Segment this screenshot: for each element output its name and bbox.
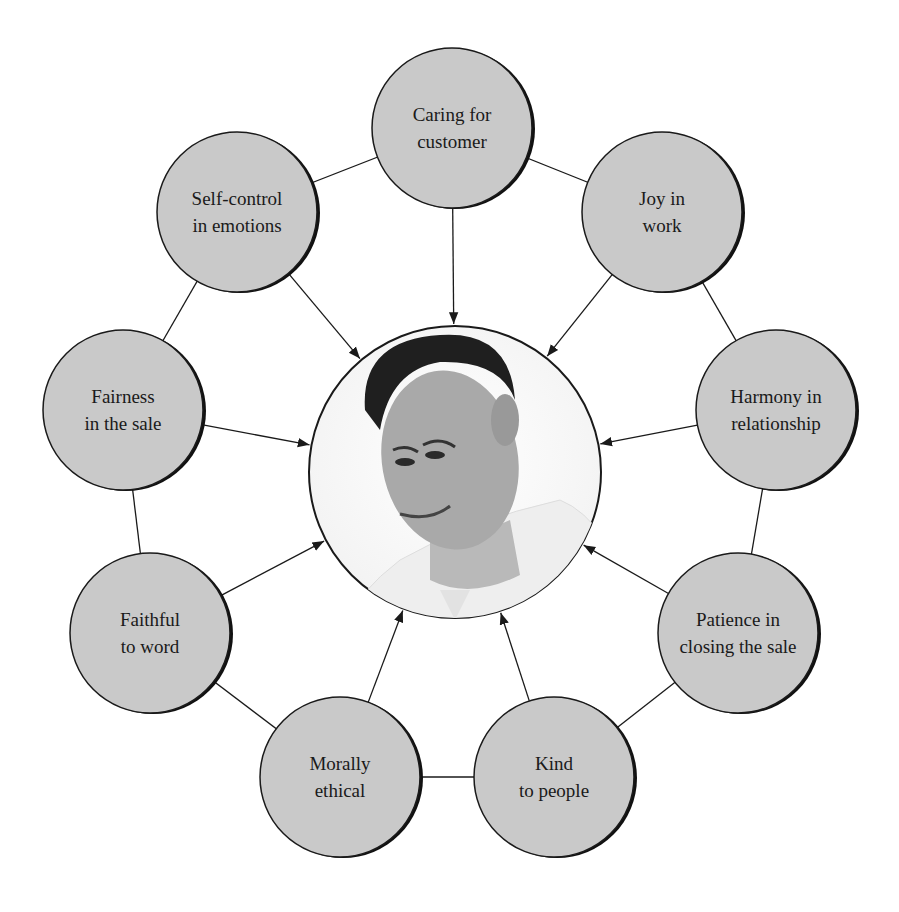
arrow-joy [547,275,612,357]
label-line-1: Harmony in [701,383,851,410]
node-label-patience: Patience inclosing the sale [663,606,813,660]
label-line-2: relationship [701,410,851,437]
node-label-morally: Morallyethical [265,750,415,804]
node-label-joy: Joy inwork [587,185,737,239]
arrow-kind [501,613,530,701]
label-line-2: ethical [265,777,415,804]
node-label-faithful: Faithfulto word [75,606,225,660]
center-portrait [309,326,640,640]
label-line-1: Fairness [48,383,198,410]
arrow-selfcontrol [288,273,360,358]
arrow-faithful [221,541,324,596]
label-line-1: Kind [479,750,629,777]
label-line-1: Caring for [377,101,527,128]
arrow-patience [584,545,669,593]
label-line-1: Morally [265,750,415,777]
label-line-2: to people [479,777,629,804]
label-line-1: Self-control [162,185,312,212]
arrow-caring [453,208,454,324]
node-label-caring: Caring forcustomer [377,101,527,155]
node-label-fairness: Fairnessin the sale [48,383,198,437]
arrow-morally [368,610,403,702]
arrow-harmony [600,425,697,444]
label-line-2: work [587,212,737,239]
node-label-harmony: Harmony inrelationship [701,383,851,437]
label-line-2: to word [75,633,225,660]
label-line-2: in emotions [162,212,312,239]
label-line-2: closing the sale [663,633,813,660]
arrow-fairness [202,425,310,445]
label-line-1: Joy in [587,185,737,212]
label-line-1: Faithful [75,606,225,633]
node-label-selfcontrol: Self-controlin emotions [162,185,312,239]
node-label-kind: Kindto people [479,750,629,804]
label-line-2: in the sale [48,410,198,437]
label-line-1: Patience in [663,606,813,633]
label-line-2: customer [377,128,527,155]
